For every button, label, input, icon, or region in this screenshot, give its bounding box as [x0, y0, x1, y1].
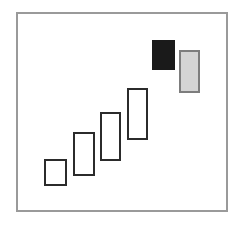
diagram-canvas [0, 0, 241, 227]
bar-1 [44, 159, 67, 186]
bar-2 [73, 132, 95, 176]
outer-frame [16, 12, 228, 212]
bar-3 [100, 112, 121, 161]
bar-4 [127, 88, 148, 140]
bar-6-gray [179, 50, 200, 93]
bar-5-black [152, 40, 175, 70]
